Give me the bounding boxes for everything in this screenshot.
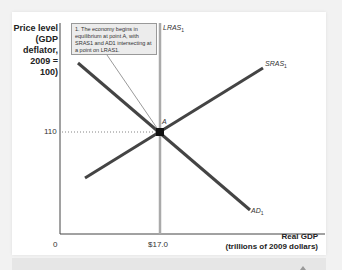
- ad-label: AD1: [251, 207, 264, 216]
- sras-curve: [85, 68, 263, 178]
- point-a-label: A: [162, 118, 167, 125]
- lras-label: LRAS1: [163, 24, 184, 33]
- annotation-note: 1. The economy begins in equilibrium at …: [71, 23, 157, 55]
- scroll-marker-icon: [300, 266, 306, 270]
- y-tick-110: 110: [44, 127, 57, 136]
- ad-curve: [78, 63, 250, 210]
- origin-label: 0: [53, 240, 57, 249]
- x-tick-17: $17.0: [148, 240, 168, 249]
- sras-label: SRAS1: [265, 60, 287, 69]
- equilibrium-point-a: [156, 128, 164, 136]
- x-axis-label: Real GDP (trillions of 2009 dollars): [226, 232, 318, 252]
- y-axis-label: Price level (GDP deflator, 2009 = 100): [10, 23, 58, 78]
